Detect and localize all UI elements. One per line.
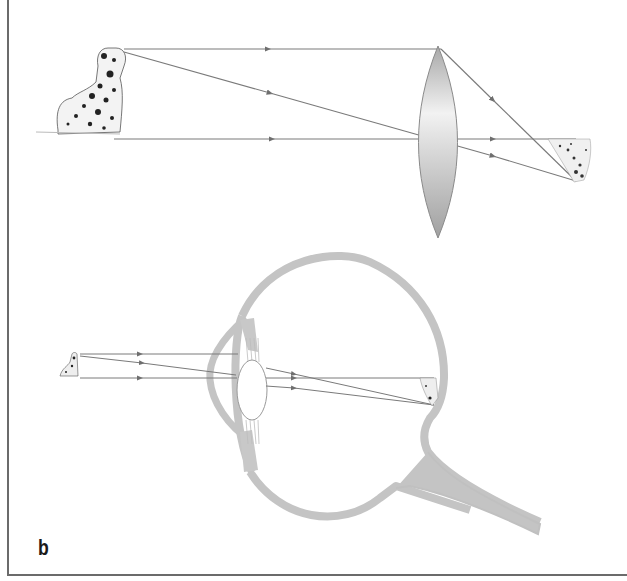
- panel-label: b: [38, 535, 49, 561]
- eye-lens: [237, 360, 267, 420]
- light-rays: [114, 49, 576, 181]
- lens-diagram: [36, 46, 591, 238]
- small-dalmatian-icon: [60, 353, 78, 377]
- eyeball-wall: [242, 256, 540, 522]
- convex-lens-icon: [419, 46, 458, 238]
- eye-diagram: [60, 256, 540, 534]
- retinal-image-icon: [420, 378, 438, 406]
- dalmatian-object-icon: [36, 48, 126, 134]
